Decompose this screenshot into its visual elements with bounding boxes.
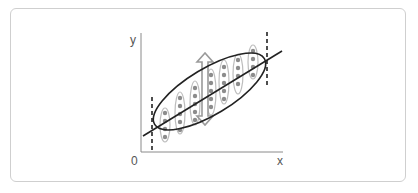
y-axis-label: y xyxy=(130,34,136,46)
origin-label: 0 xyxy=(131,155,138,167)
regression-diagram xyxy=(0,0,418,193)
x-axis-label: x xyxy=(277,155,283,167)
